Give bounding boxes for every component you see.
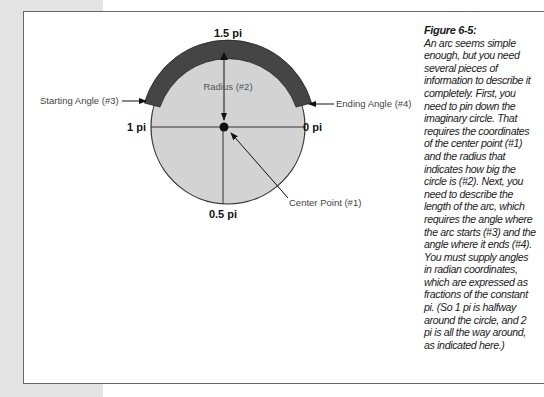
- label-0-5-pi: 0.5 pi: [209, 208, 237, 220]
- label-starting-angle: Starting Angle (#3): [40, 95, 119, 106]
- figure-title: Figure 6-5:: [424, 24, 536, 37]
- figure-caption: Figure 6-5: An arc seems simple enough, …: [424, 24, 536, 351]
- label-center-point: Center Point (#1): [289, 197, 361, 208]
- label-0-pi: 0 pi: [303, 121, 322, 133]
- label-1-pi: 1 pi: [127, 121, 146, 133]
- label-ending-angle: Ending Angle (#4): [336, 98, 412, 109]
- center-point-dot: [220, 123, 229, 132]
- label-1-5-pi: 1.5 pi: [214, 27, 242, 39]
- figure-caption-body: An arc seems simple enough, but you need…: [424, 37, 536, 352]
- label-radius: Radius (#2): [203, 81, 252, 92]
